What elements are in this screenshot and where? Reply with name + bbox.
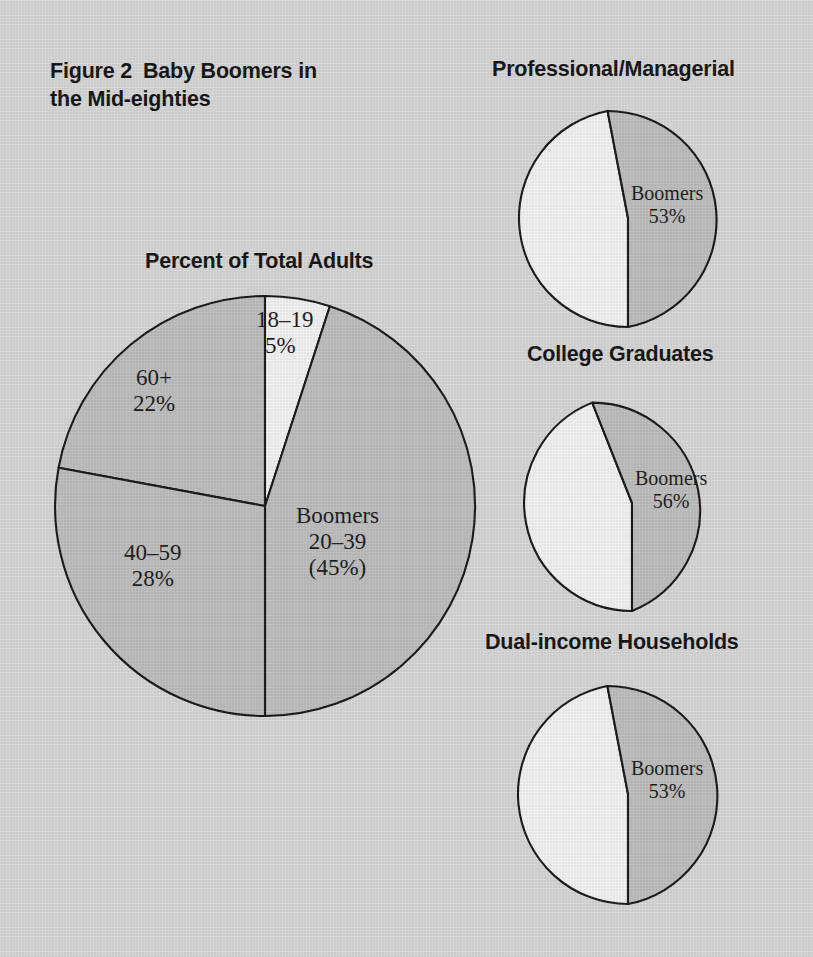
pie-label-60plus-name: 60+ (136, 365, 172, 390)
side-pie-label-professional-name: Boomers (631, 182, 703, 204)
pie-label-boomers-main: Boomers 20–39 (45%) (296, 503, 379, 582)
side-pie-chart-dual-income (518, 684, 738, 904)
side-pie-label-dual-income-name: Boomers (631, 757, 703, 779)
side-chart-title-dual-income: Dual-income Households (485, 629, 739, 657)
pie-label-40-59-value: 28% (132, 566, 174, 591)
side-pie-label-dual-income: Boomers 53% (631, 757, 703, 803)
side-pie-label-professional: Boomers 53% (631, 182, 703, 228)
side-chart-title-college: College Graduates (527, 341, 714, 369)
pie-slice-professional-other (519, 111, 628, 327)
side-pie-label-dual-income-value: 53% (649, 780, 686, 802)
pie-label-60plus: 60+ 22% (133, 365, 175, 417)
pie-label-boomers-main-name: Boomers (296, 503, 379, 528)
pie-label-60plus-value: 22% (133, 391, 175, 416)
side-pie-label-college: Boomers 56% (635, 467, 707, 513)
pie-label-18-19-name: 18–19 (256, 307, 314, 332)
pie-label-40-59-name: 40–59 (124, 540, 182, 565)
pie-label-18-19-value: 5% (265, 333, 296, 359)
figure-caption: Figure 2Baby Boomers in the Mid-eighties (50, 58, 350, 113)
pie-label-40-59: 40–59 28% (124, 540, 182, 592)
side-chart-title-professional: Professional/Managerial (492, 56, 735, 84)
side-pie-label-college-name: Boomers (635, 467, 707, 489)
figure-title-line1: Baby Boomers in (143, 59, 317, 83)
figure-canvas: Figure 2Baby Boomers in the Mid-eighties… (0, 0, 813, 957)
pie-label-boomers-main-range: 20–39 (309, 529, 367, 554)
pie-slice-dual-other (518, 686, 628, 904)
side-pie-label-college-value: 56% (653, 490, 690, 512)
pie-label-18-19: 18–19 5% (256, 307, 314, 359)
figure-title-line2: the Mid-eighties (50, 87, 210, 111)
side-pie-chart-professional (519, 109, 737, 327)
pie-label-boomers-main-value: (45%) (309, 555, 366, 580)
side-pie-label-professional-value: 53% (649, 205, 686, 227)
side-pie-chart-college (524, 395, 740, 611)
main-chart-title: Percent of Total Adults (145, 248, 373, 276)
figure-number: Figure 2 (50, 59, 132, 83)
